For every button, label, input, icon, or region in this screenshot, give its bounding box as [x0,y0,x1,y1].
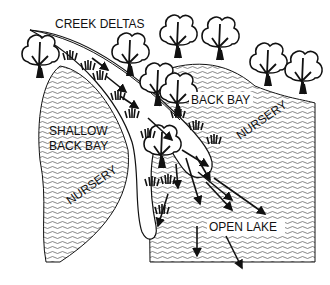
label-shallow-line2: BACK BAY [49,139,108,153]
label-open-lake: OPEN LAKE [209,220,277,234]
label-creek-deltas: CREEK DELTAS [55,17,145,31]
label-shallow-line1: SHALLOW [49,124,108,138]
label-back-bay: BACK BAY [191,93,250,107]
lake-habitat-diagram: CREEK DELTAS BACK BAY SHALLOW BACK BAY N… [0,0,330,285]
